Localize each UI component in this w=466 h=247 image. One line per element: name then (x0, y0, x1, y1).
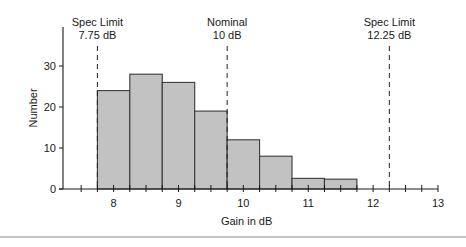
histogram-bar-2 (162, 82, 194, 189)
annotation-value-2: 12.25 dB (367, 29, 411, 41)
histogram-bar-4 (227, 140, 259, 189)
histogram-bar-5 (260, 156, 292, 189)
x-tick-label-5: 13 (432, 197, 444, 209)
annotation-title-1: Nominal (207, 16, 247, 28)
y-tick-label-0: 0 (50, 183, 56, 195)
y-tick-label-3: 30 (44, 60, 56, 72)
x-tick-label-3: 11 (303, 197, 314, 209)
histogram-chart: Spec Limit7.75 dBNominal10 dBSpec Limit1… (0, 0, 466, 247)
x-tick-label-4: 12 (367, 197, 379, 209)
y-axis-label: Number (27, 88, 39, 127)
annotation-value-0: 7.75 dB (78, 29, 116, 41)
annotation-value-1: 10 dB (213, 29, 242, 41)
y-ticks-group: 0102030 (44, 60, 63, 195)
x-tick-label-2: 10 (237, 197, 249, 209)
histogram-bar-3 (195, 111, 227, 189)
x-tick-label-1: 9 (175, 197, 181, 209)
histogram-bar-1 (130, 74, 162, 189)
annotation-title-0: Spec Limit (72, 16, 123, 28)
histogram-bar-0 (97, 91, 129, 189)
y-tick-label-2: 20 (44, 101, 56, 113)
y-tick-label-1: 10 (44, 142, 56, 154)
x-tick-label-0: 8 (111, 197, 117, 209)
annotation-title-2: Spec Limit (364, 16, 415, 28)
x-axis-label: Gain in dB (221, 215, 272, 227)
